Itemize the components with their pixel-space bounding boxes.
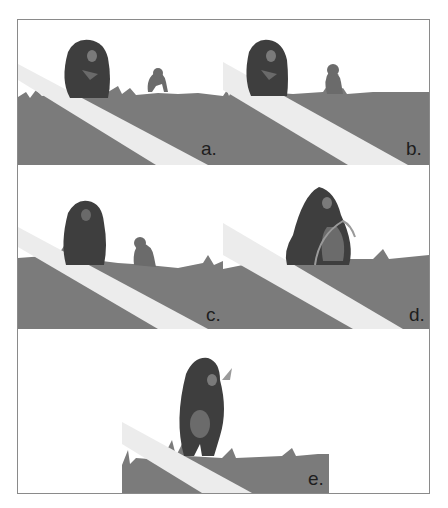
scene-illustration [18,165,223,329]
panel-label-a: a. [201,138,217,160]
panel-e: e. [122,340,329,493]
panel-label-c: c. [206,304,221,326]
panel-a: a. [18,20,223,165]
panel-b: b. [223,20,429,165]
scene-illustration [223,20,429,165]
panel-label-d: d. [409,304,425,326]
panel-d: d. [223,165,429,329]
scene-illustration [122,340,329,493]
panel-c: c. [18,165,223,329]
panel-label-e: e. [308,468,324,490]
panel-label-b: b. [406,138,422,160]
scene-illustration [223,165,429,329]
scene-illustration [18,20,223,165]
